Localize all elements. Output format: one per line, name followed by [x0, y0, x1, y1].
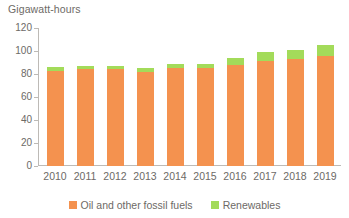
y-axis-tick-label: 120: [2, 23, 32, 33]
bar-group[interactable]: [107, 66, 124, 166]
x-axis-labels: 2010201120122013201420152016201720182019: [38, 170, 341, 186]
bar-group[interactable]: [257, 52, 274, 166]
bar-segment-fossil[interactable]: [77, 69, 94, 166]
x-axis-tick-label: 2017: [253, 170, 276, 182]
legend-item[interactable]: Oil and other fossil fuels: [69, 199, 193, 211]
x-axis-tick-label: 2016: [223, 170, 246, 182]
y-axis-title: Gigawatt-hours: [8, 3, 81, 15]
bar-group[interactable]: [167, 64, 184, 166]
y-axis-tick-mark: [34, 166, 38, 167]
bar-segment-fossil[interactable]: [227, 65, 244, 166]
bar-group[interactable]: [47, 67, 64, 166]
bar-group[interactable]: [137, 68, 154, 166]
bar-segment-fossil[interactable]: [257, 61, 274, 166]
x-axis-tick-label: 2015: [193, 170, 216, 182]
y-axis-tick-label: 100: [2, 46, 32, 56]
bar-segment-fossil[interactable]: [137, 72, 154, 166]
bar-group[interactable]: [197, 64, 214, 166]
bar-segment-renewables[interactable]: [257, 52, 274, 61]
x-axis-tick-label: 2014: [163, 170, 186, 182]
x-axis-tick-label: 2011: [74, 170, 97, 182]
bar-segment-renewables[interactable]: [287, 50, 304, 59]
bar-group[interactable]: [317, 45, 334, 166]
bar-chart: Gigawatt-hours 020406080100120 201020112…: [0, 0, 349, 218]
y-axis-tick-label: 80: [2, 69, 32, 79]
legend-swatch-icon: [211, 201, 219, 209]
legend-item[interactable]: Renewables: [211, 199, 281, 211]
bar-segment-fossil[interactable]: [47, 71, 64, 166]
bar-segment-fossil[interactable]: [317, 56, 334, 166]
x-axis-tick-label: 2012: [103, 170, 126, 182]
bar-segment-fossil[interactable]: [107, 69, 124, 166]
x-axis-tick-label: 2013: [133, 170, 156, 182]
x-axis-tick-label: 2018: [283, 170, 306, 182]
y-axis-tick-label: 60: [2, 92, 32, 102]
bar-group[interactable]: [77, 66, 94, 166]
y-axis-tick-label: 20: [2, 138, 32, 148]
legend-label: Renewables: [223, 199, 281, 211]
chart-legend: Oil and other fossil fuelsRenewables: [0, 199, 349, 211]
bar-group[interactable]: [287, 50, 304, 166]
bar-segment-renewables[interactable]: [227, 58, 244, 65]
bar-segment-renewables[interactable]: [317, 45, 334, 55]
x-axis-tick-label: 2019: [313, 170, 336, 182]
plot-area: 020406080100120: [38, 28, 338, 166]
y-axis-tick-label: 0: [2, 161, 32, 171]
legend-swatch-icon: [69, 201, 77, 209]
bar-segment-fossil[interactable]: [197, 68, 214, 166]
bar-series-container: [38, 28, 338, 166]
x-axis-tick-label: 2010: [43, 170, 66, 182]
bar-segment-fossil[interactable]: [287, 59, 304, 166]
legend-label: Oil and other fossil fuels: [81, 199, 193, 211]
bar-group[interactable]: [227, 58, 244, 166]
bar-segment-fossil[interactable]: [167, 68, 184, 166]
y-axis-tick-label: 40: [2, 115, 32, 125]
